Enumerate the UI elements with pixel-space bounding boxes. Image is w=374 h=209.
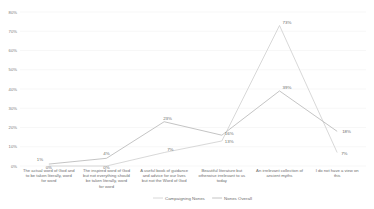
y-axis-ticks: 0%10%20%30%40%50%60%70%80% <box>9 10 18 169</box>
series-line-campaigning-nones <box>49 25 337 166</box>
x-category-label: The actual word of God andto be taken li… <box>23 168 75 183</box>
x-category-label: A useful book of guidanceand advice for … <box>140 168 189 183</box>
data-label: 16% <box>225 131 234 136</box>
data-label: 23% <box>163 116 172 121</box>
data-label: 18% <box>342 129 351 134</box>
data-label: 73% <box>283 20 292 25</box>
data-label: 1% <box>37 157 43 162</box>
data-label: 13% <box>225 139 234 144</box>
data-labels: 0%0%7%13%73%7%1%4%23%16%39%18% <box>37 20 351 170</box>
legend-label: Nones Overall <box>224 196 252 201</box>
y-tick-label: 60% <box>9 48 18 53</box>
legend-item: Campaigning Nones <box>153 196 206 201</box>
y-tick-label: 10% <box>9 144 18 149</box>
x-category-label: Beautiful literature butotherwise irrele… <box>199 168 246 183</box>
legend-label: Campaigning Nones <box>165 196 206 201</box>
y-tick-label: 70% <box>9 29 18 34</box>
legend-item: Nones Overall <box>212 196 252 201</box>
legend: Campaigning NonesNones Overall <box>153 196 252 201</box>
y-tick-label: 50% <box>9 67 18 72</box>
y-tick-label: 80% <box>9 10 18 15</box>
data-label: 0% <box>46 165 52 170</box>
x-category-label: The inspired word of Godbut not everythi… <box>83 168 131 189</box>
y-tick-label: 0% <box>11 164 17 169</box>
y-tick-label: 20% <box>9 125 18 130</box>
x-category-label: An irrelevant collection ofancient myths <box>256 168 304 178</box>
data-label: 4% <box>103 151 109 156</box>
data-label: 7% <box>341 151 347 156</box>
y-tick-label: 40% <box>9 87 18 92</box>
x-axis-categories: The actual word of God andto be taken li… <box>23 168 359 189</box>
data-label: 7% <box>167 147 173 152</box>
gridlines <box>20 12 366 166</box>
series-lines <box>49 25 337 166</box>
line-chart: 0%10%20%30%40%50%60%70%80% The actual wo… <box>0 0 374 209</box>
data-label: 39% <box>283 85 292 90</box>
y-tick-label: 30% <box>9 106 18 111</box>
data-label: 0% <box>103 165 109 170</box>
x-category-label: I do not have a view onthis <box>316 168 360 178</box>
